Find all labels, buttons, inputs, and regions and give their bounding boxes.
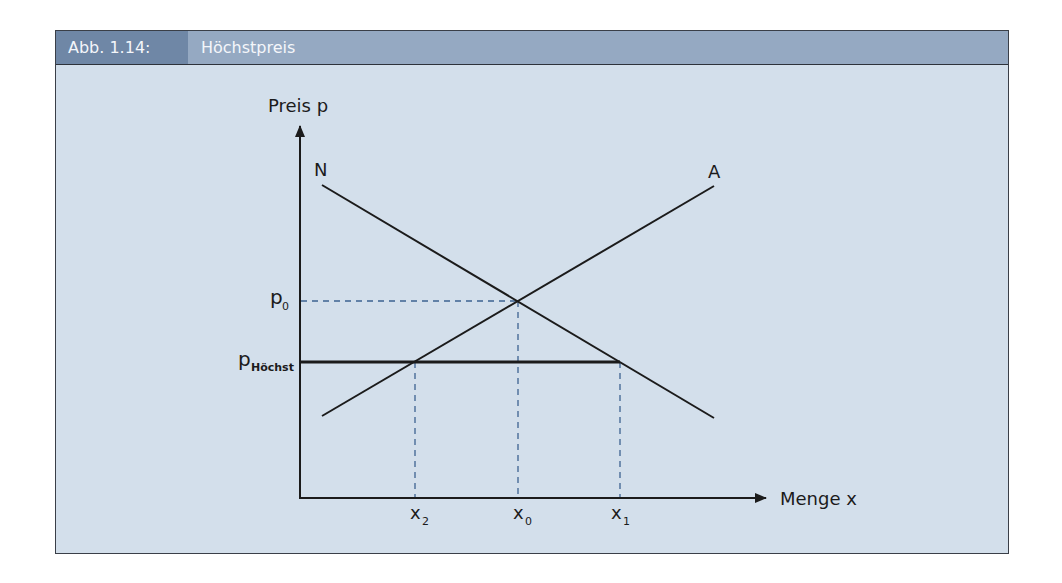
svg-text:0: 0: [525, 515, 532, 528]
p-hoechst-tick-label: p Höchst: [238, 347, 294, 374]
svg-text:p: p: [238, 347, 251, 371]
x1-tick-label: x 1: [611, 502, 630, 528]
svg-text:1: 1: [623, 515, 630, 528]
y-axis-label: Preis p: [268, 95, 328, 116]
svg-text:x: x: [410, 502, 421, 523]
svg-text:p: p: [270, 285, 283, 309]
chart-canvas: Preis p Menge x N A p 0 p Höchst x 2 x 0…: [0, 0, 1062, 583]
svg-text:Höchst: Höchst: [251, 361, 294, 374]
supply-label: A: [708, 161, 721, 182]
demand-label: N: [314, 159, 327, 180]
svg-text:x: x: [513, 502, 524, 523]
x0-tick-label: x 0: [513, 502, 532, 528]
svg-text:2: 2: [422, 515, 429, 528]
svg-text:0: 0: [282, 300, 289, 313]
x-axis-label: Menge x: [780, 488, 857, 509]
x2-tick-label: x 2: [410, 502, 429, 528]
svg-text:x: x: [611, 502, 622, 523]
p0-tick-label: p 0: [270, 285, 289, 313]
